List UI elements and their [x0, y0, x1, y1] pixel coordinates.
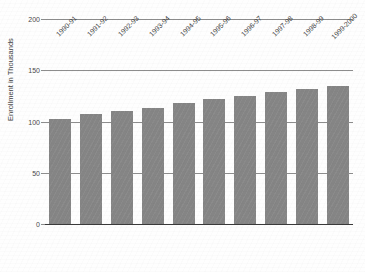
y-tick-label: 100 [28, 118, 40, 125]
bar [296, 89, 318, 224]
y-tick-label: 0 [36, 221, 40, 228]
bar [142, 108, 164, 224]
y-tick-label: 200 [28, 16, 40, 23]
bar [234, 96, 256, 224]
bar [80, 114, 102, 224]
bar [173, 103, 195, 224]
bar [49, 119, 71, 224]
bar-chart: Enrollment in Thousands 050100150200 199… [0, 0, 365, 272]
bar-series [45, 19, 353, 224]
bar [203, 99, 225, 224]
y-tick-label: 50 [32, 169, 40, 176]
bar [327, 86, 349, 224]
bar [111, 111, 133, 224]
bar [265, 92, 287, 224]
axis-baseline [43, 224, 353, 225]
y-tick-mark [41, 224, 45, 225]
y-tick-label: 150 [28, 67, 40, 74]
chart-title [0, 0, 365, 2]
plot-area: 050100150200 1990-911991-921992-931993-9… [45, 19, 353, 224]
y-axis-label: Enrollment in Thousands [6, 38, 15, 121]
